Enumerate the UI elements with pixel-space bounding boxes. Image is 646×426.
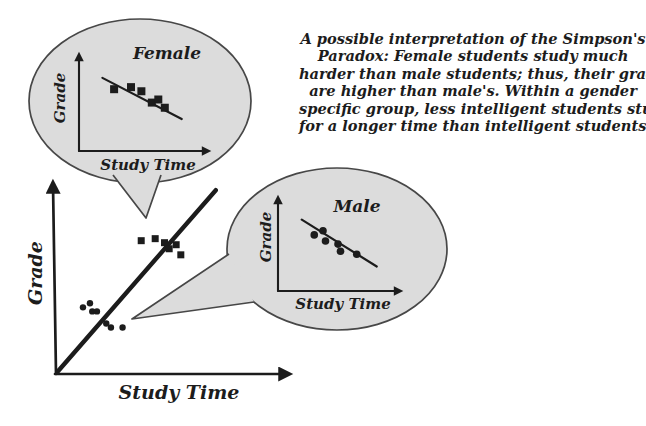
- circle-marker-male: [310, 231, 318, 239]
- square-marker-female: [173, 241, 180, 248]
- square-marker-female: [161, 104, 169, 112]
- square-marker-female: [138, 237, 145, 244]
- caption-line: are higher than male's. Within a gender: [299, 82, 646, 99]
- female-study-time-label: Study Time: [100, 156, 195, 174]
- caption-line: harder than male students; thus, their g…: [299, 65, 646, 82]
- square-marker-female: [110, 85, 118, 93]
- male-study-time-label: Study Time: [295, 295, 390, 313]
- male-bubble: Male Grade Study Time: [132, 168, 447, 330]
- square-marker-female: [166, 245, 173, 252]
- square-marker-female: [161, 239, 168, 246]
- male-grade-label: Grade: [257, 212, 275, 262]
- caption: A possible interpretation of the Simpson…: [299, 30, 646, 134]
- circle-marker-male: [94, 308, 100, 314]
- female-title: Female: [132, 43, 201, 63]
- square-marker-female: [154, 96, 162, 104]
- square-marker-female: [137, 87, 145, 95]
- female-bubble-tail: [113, 175, 161, 218]
- main-y-axis-arrow-up: [53, 184, 56, 374]
- caption-line: for a longer time than intelligent stude…: [299, 117, 646, 134]
- main-study-time-label: Study Time: [119, 381, 240, 403]
- circle-marker-male: [119, 324, 125, 330]
- caption-line: A possible interpretation of the Simpson…: [299, 30, 646, 47]
- square-marker-female: [127, 83, 135, 91]
- circle-marker-male: [353, 250, 361, 258]
- square-marker-female: [152, 235, 159, 242]
- circle-marker-male: [87, 300, 93, 306]
- circle-marker-male: [322, 237, 330, 245]
- circle-marker-male: [319, 227, 327, 235]
- female-grade-label: Grade: [51, 73, 69, 123]
- female-bubble: Female Grade Study Time: [29, 19, 251, 218]
- simpsons-paradox-figure: Grade Study Time Female Grade Study Time…: [0, 0, 646, 426]
- circle-marker-male: [334, 240, 342, 248]
- main-grade-label: Grade: [24, 241, 46, 305]
- male-title: Male: [332, 196, 380, 216]
- square-marker-female: [177, 251, 184, 258]
- circle-marker-male: [80, 304, 86, 310]
- caption-line: specific group, less intelligent student…: [299, 100, 646, 117]
- circle-marker-male: [337, 247, 345, 255]
- circle-marker-male: [108, 324, 114, 330]
- caption-line: Paradox: Female students study much: [299, 47, 646, 64]
